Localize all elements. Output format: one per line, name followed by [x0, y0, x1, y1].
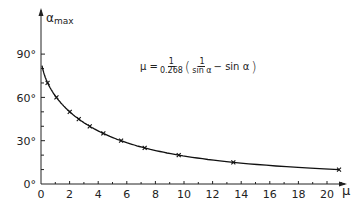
y-axis-label: αmax — [46, 12, 74, 26]
x-tick-label: 0 — [31, 189, 51, 200]
axes — [39, 8, 348, 187]
x-marker — [88, 124, 92, 128]
x-tick-label: 2 — [60, 189, 80, 200]
x-tick-label: 20 — [317, 189, 337, 200]
formula-lhs: μ = — [140, 61, 158, 72]
x-marker — [68, 110, 72, 114]
formula-annotation: μ = 1 0.268 ( 1 sin α − sin α ) — [140, 58, 257, 76]
y-tick-label: 30° — [6, 136, 36, 147]
x-marker — [77, 117, 81, 121]
x-tick-label: 10 — [174, 189, 194, 200]
x-tick-label: 18 — [288, 189, 308, 200]
formula-inner-fraction: 1 sin α — [192, 58, 211, 76]
x-marker — [54, 95, 58, 99]
x-tick-label: 16 — [260, 189, 280, 200]
x-axis-label: μ — [342, 184, 350, 197]
x-tick-label: 14 — [231, 189, 251, 200]
plot-area — [0, 0, 362, 208]
x-tick-label: 12 — [203, 189, 223, 200]
curve — [42, 66, 339, 170]
formula-coefficient: 1 0.268 — [160, 58, 183, 76]
y-tick-label: 60° — [6, 93, 36, 104]
x-tick-label: 6 — [117, 189, 137, 200]
x-tick-label: 8 — [145, 189, 165, 200]
x-tick-label: 4 — [88, 189, 108, 200]
y-tick-label: 90° — [6, 49, 36, 60]
